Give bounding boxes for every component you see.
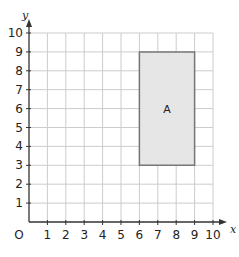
x-tick-label: 9	[191, 228, 199, 242]
x-tick-label: 1	[44, 228, 52, 242]
y-tick-label: 1	[15, 196, 23, 210]
x-tick-label: 7	[154, 228, 162, 242]
x-axis-arrow-icon	[219, 219, 227, 225]
y-tick-label: 2	[15, 177, 23, 191]
origin-label: O	[14, 228, 23, 242]
y-tick-label: 6	[15, 102, 23, 116]
x-tick-label: 6	[136, 228, 144, 242]
x-tick-label: 8	[172, 228, 180, 242]
y-tick-label: 4	[15, 139, 23, 153]
y-tick-label: 8	[15, 64, 23, 78]
y-tick-label: 7	[15, 83, 23, 97]
x-tick-label: 3	[80, 228, 88, 242]
x-tick-label: 4	[99, 228, 107, 242]
shape-label: A	[163, 103, 171, 116]
y-tick-label: 5	[15, 121, 23, 135]
x-tick-label: 5	[117, 228, 125, 242]
y-tick-label: 10	[8, 26, 23, 40]
y-tick-label: 3	[15, 158, 23, 172]
y-axis-label: y	[21, 9, 29, 22]
x-axis-label: x	[230, 223, 237, 236]
y-tick-label: 9	[15, 45, 23, 59]
coordinate-grid: A1234567891012345678910Oxy	[0, 0, 239, 257]
x-tick-label: 10	[205, 228, 220, 242]
x-tick-label: 2	[62, 228, 70, 242]
